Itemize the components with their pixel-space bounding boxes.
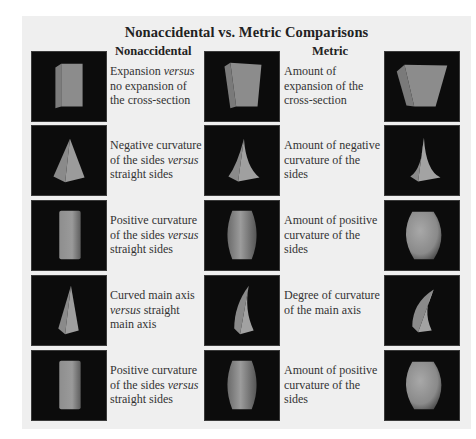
nonaccidental-description: Curved main axis versus straight main ax… [110,288,202,332]
cylinder-icon [31,350,107,421]
box-slight-expansion-icon [204,51,280,122]
comparison-row-positive-curvature: Positive curvature of the sides versus s… [22,200,471,271]
box-straight-icon [31,51,107,122]
comparison-figure: Nonaccidental vs. Metric Comparisons Non… [22,16,471,429]
box-strong-expansion-icon [384,51,460,122]
cylinder-icon [31,200,107,271]
comparison-row-positive-curvature-2: Positive curvature of the sides versus s… [22,350,471,421]
cone-strong-curve-icon [384,275,460,346]
cone-straight-axis-icon [31,275,107,346]
pyramid-slight-concave-icon [204,125,280,196]
comparison-row-negative-curvature: Negative curvature of the sides versus s… [22,125,471,196]
pyramid-straight-icon [31,125,107,196]
barrel-slight-icon [204,200,280,271]
comparison-row-expansion: Expansion versus no expansion of the cro… [22,51,471,122]
pyramid-strong-concave-icon [384,125,460,196]
metric-description: Degree of curvature of the main axis [284,288,380,317]
cone-slight-curve-icon [204,275,280,346]
barrel-strong-icon [384,200,460,271]
figure-title: Nonaccidental vs. Metric Comparisons [22,24,471,41]
metric-description: Amount of expansion of the cross-section [284,64,380,108]
nonaccidental-description: Negative curvature of the sides versus s… [110,138,202,182]
nonaccidental-description: Positive curvature of the sides versus s… [110,363,202,407]
nonaccidental-description: Positive curvature of the sides versus s… [110,213,202,257]
nonaccidental-description: Expansion versus no expansion of the cro… [110,64,202,108]
barrel-slight-icon [204,350,280,421]
metric-description: Amount of positive curvature of the side… [284,363,380,407]
metric-description: Amount of positive curvature of the side… [284,213,380,257]
barrel-strong-icon [384,350,460,421]
metric-description: Amount of negative curvature of the side… [284,138,380,182]
comparison-row-axis-curvature: Curved main axis versus straight main ax… [22,275,471,346]
